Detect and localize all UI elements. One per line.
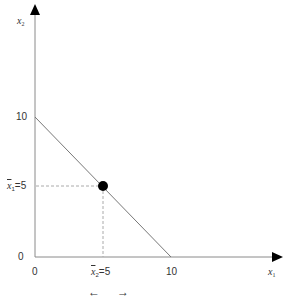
right-arrow-icon: → [117,285,129,299]
point-x-label: x2=5 [91,266,110,278]
point-y-label: x1=5 [7,180,26,192]
left-arrow-icon: ← [88,285,100,299]
y-axis-arrow-icon [30,4,40,15]
x-axis-label: x1 [268,266,275,278]
x-tick-0: 0 [32,266,38,277]
highlight-point [98,181,108,191]
x-tick-10: 10 [166,266,177,277]
y-axis-label: x2 [17,15,24,27]
x-axis-arrow-icon [272,252,283,262]
diagram-canvas [0,0,289,301]
y-tick-0: 0 [18,251,24,262]
y-tick-10: 10 [16,111,27,122]
